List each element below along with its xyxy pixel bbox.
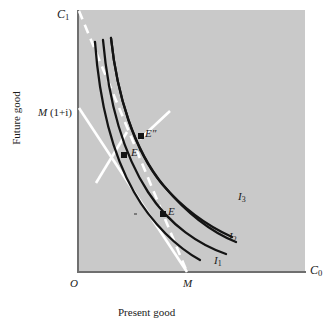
point-marker-e-prime <box>121 152 127 158</box>
y-axis-endpoint-label: C1 <box>57 8 69 22</box>
point-label-e: E <box>168 206 175 217</box>
curve-label-i3: I3 <box>238 191 246 204</box>
curve-label-i1: I1 <box>214 255 222 268</box>
figure-canvas: C1 M (1+i) O M C0 I1 I2 I3 E E′ E″ Futur… <box>0 0 333 328</box>
point-label-e-double-prime: E″ <box>145 128 156 139</box>
origin-label: O <box>70 278 78 289</box>
point-marker-e <box>160 211 166 217</box>
indifference-curve-i2 <box>103 40 226 254</box>
chart-graphics <box>0 0 333 328</box>
point-label-e-prime: E′ <box>131 147 140 158</box>
curve-label-i2: I2 <box>229 231 237 244</box>
point-marker-e-double-prime <box>138 133 144 139</box>
x-axis-tick-label-m: M <box>183 278 192 289</box>
y-axis-title: Future good <box>10 78 22 158</box>
stray-mark <box>134 213 137 215</box>
x-axis-title: Present good <box>118 306 175 318</box>
y-axis-tick-label-m-one-plus-i: M (1+i) <box>38 107 72 118</box>
x-axis-endpoint-label: C0 <box>310 264 322 278</box>
indifference-curve-i1 <box>95 42 200 260</box>
